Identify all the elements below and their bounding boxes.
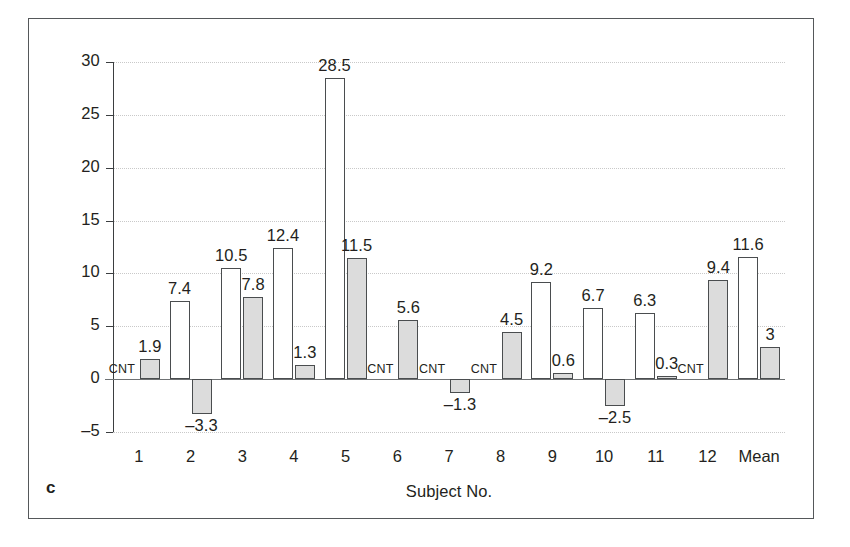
bar-value-label: 6.7 xyxy=(570,286,616,305)
y-axis-tick-label: –5 xyxy=(81,421,100,440)
bar xyxy=(502,332,522,380)
gridline xyxy=(113,221,785,222)
bar xyxy=(760,347,780,379)
bar xyxy=(295,365,315,379)
cnt-annotation: CNT xyxy=(109,362,135,376)
bar-value-label: 1.3 xyxy=(282,343,328,362)
x-axis-tick-label: Mean xyxy=(729,447,789,466)
bar-value-label: 6.3 xyxy=(622,291,668,310)
cnt-annotation: CNT xyxy=(471,362,497,376)
cnt-annotation: CNT xyxy=(367,362,393,376)
bar xyxy=(605,379,625,405)
bar xyxy=(553,373,573,379)
bar xyxy=(708,280,728,379)
bar-value-label: 3 xyxy=(747,325,793,344)
bar-value-label: –1.3 xyxy=(437,395,483,414)
y-axis-tick-label: 20 xyxy=(81,157,100,176)
bar xyxy=(192,379,212,414)
y-axis-tick-mark xyxy=(106,326,113,327)
y-axis-spine xyxy=(113,62,114,432)
y-axis-tick-label: 0 xyxy=(91,368,100,387)
bar xyxy=(243,297,263,379)
y-axis-tick-label: 30 xyxy=(81,51,100,70)
bar-value-label: 1.9 xyxy=(127,337,173,356)
gridline xyxy=(113,326,785,327)
y-axis-tick-mark xyxy=(106,432,113,433)
bar-value-label: 7.8 xyxy=(230,275,276,294)
y-axis-tick-mark xyxy=(106,62,113,63)
gridline xyxy=(113,115,785,116)
cnt-annotation: CNT xyxy=(677,362,703,376)
y-axis-tick-mark xyxy=(106,168,113,169)
y-axis-tick-label: 15 xyxy=(81,210,100,229)
bar-value-label: –2.5 xyxy=(592,408,638,427)
bar-value-label: 9.2 xyxy=(518,260,564,279)
y-axis-tick-mark xyxy=(106,273,113,274)
bar-value-label: 9.4 xyxy=(695,258,741,277)
bar-value-label: –3.3 xyxy=(179,416,225,435)
cnt-annotation: CNT xyxy=(419,362,445,376)
x-axis-title: Subject No. xyxy=(113,482,785,501)
bar-value-label: 11.5 xyxy=(334,236,380,255)
gridline xyxy=(113,168,785,169)
bar xyxy=(450,379,470,393)
y-axis-tick-label: 10 xyxy=(81,262,100,281)
bar xyxy=(170,301,190,379)
bar-value-label: 28.5 xyxy=(312,56,358,75)
y-axis-tick-label: 5 xyxy=(91,315,100,334)
bar xyxy=(583,308,603,379)
bar-value-label: 4.5 xyxy=(489,310,535,329)
bar xyxy=(657,376,677,379)
bar xyxy=(738,257,758,380)
y-axis-tick-mark xyxy=(106,115,113,116)
bar xyxy=(398,320,418,379)
gridline xyxy=(113,273,785,274)
figure-panel-c: SRT50 (dB SPL) 302520151050–5 CNT1.97.4–… xyxy=(0,0,850,547)
bar-value-label: 5.6 xyxy=(385,298,431,317)
bar-value-label: 11.6 xyxy=(725,235,771,254)
y-axis-tick-label: 25 xyxy=(81,104,100,123)
plot-area: SRT50 (dB SPL) 302520151050–5 CNT1.97.4–… xyxy=(0,0,850,547)
bar xyxy=(325,78,345,379)
bar-value-label: 7.4 xyxy=(157,279,203,298)
gridline xyxy=(113,62,785,63)
bar-value-label: 10.5 xyxy=(208,246,254,265)
y-axis-tick-mark xyxy=(106,221,113,222)
bar-value-label: 12.4 xyxy=(260,226,306,245)
bar xyxy=(347,258,367,380)
bar xyxy=(140,359,160,379)
panel-letter: c xyxy=(46,478,55,498)
bar-value-label: 0.6 xyxy=(540,351,586,370)
